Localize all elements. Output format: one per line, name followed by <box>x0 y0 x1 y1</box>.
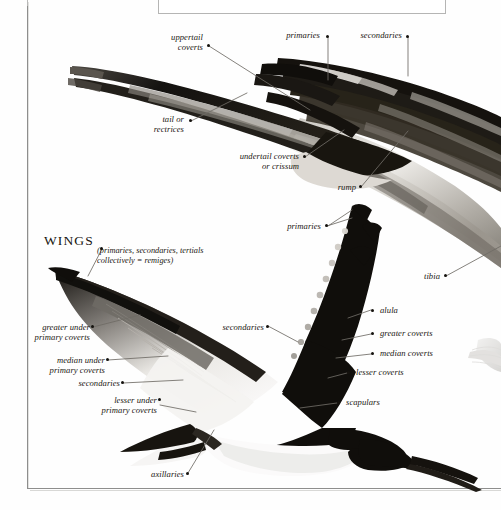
label-primaries-top: primaries <box>246 31 320 41</box>
section-heading-wings: WINGS <box>44 233 94 249</box>
plate-page: WINGS (primaries, secondaries, tertials … <box>0 0 501 510</box>
label-alula: alula <box>380 306 440 316</box>
label-dot-lesser-under-primary-coverts <box>158 398 161 401</box>
label-dot-lesser-coverts <box>347 371 350 374</box>
caption-box <box>158 0 446 14</box>
subheading-line-2: collectively = remiges) <box>97 256 173 265</box>
label-greater-under-primary-coverts: greater underprimary coverts <box>18 323 90 342</box>
label-scapulars: scapulars <box>346 398 416 408</box>
page-frame-left-shadow <box>28 2 29 489</box>
label-rump: rump <box>318 183 356 193</box>
label-lesser-coverts: lesser coverts <box>356 368 442 378</box>
label-secondaries-top: secondaries <box>324 31 402 41</box>
label-dot-primaries-mid <box>325 224 328 227</box>
label-dot-tibia <box>444 274 447 277</box>
plate-artwork <box>0 0 501 510</box>
label-tail-or-rectrices: tail orrectrices <box>128 115 184 134</box>
label-dot-axillaries <box>186 472 189 475</box>
label-median-coverts: median coverts <box>380 349 470 359</box>
label-dot-greater-under-primary-coverts <box>91 325 94 328</box>
label-dot-secondaries-upperwing <box>266 325 269 328</box>
page-frame-bottom-rule <box>27 488 501 489</box>
label-secondaries-underwing: secondaries <box>46 379 120 389</box>
label-dot-greater-coverts <box>371 332 374 335</box>
page-frame-bottom-shadow <box>30 490 501 491</box>
label-secondaries-upperwing: secondaries <box>190 323 264 333</box>
subheading-line-1: (primaries, secondaries, tertials <box>97 246 203 255</box>
label-dot-uppertail-coverts <box>207 44 210 47</box>
section-subheading-remiges: (primaries, secondaries, tertials collec… <box>97 246 203 266</box>
label-dot-scapulars <box>337 401 340 404</box>
label-dot-secondaries-top <box>406 35 409 38</box>
label-tibia: tibia <box>398 272 440 282</box>
label-axillaries: axillaries <box>140 470 184 480</box>
label-dot-tail-or-rectrices <box>189 119 192 122</box>
label-primaries-mid: primaries <box>245 222 321 232</box>
figure-right-edge-partial <box>468 338 501 372</box>
label-undertail-coverts: undertail covertsor crissum <box>203 152 299 171</box>
label-dot-undertail-coverts <box>303 155 306 158</box>
label-dot-secondaries-underwing <box>121 381 124 384</box>
label-uppertail-coverts: uppertailcoverts <box>108 33 203 52</box>
label-dot-wings-remiges <box>100 247 103 250</box>
label-dot-rump <box>359 185 362 188</box>
label-dot-alula <box>371 309 374 312</box>
label-median-under-primary-coverts: median underprimary coverts <box>33 356 105 375</box>
label-dot-median-under-primary-coverts <box>106 358 109 361</box>
label-greater-coverts: greater coverts <box>380 329 470 339</box>
label-dot-median-coverts <box>371 352 374 355</box>
label-lesser-under-primary-coverts: lesser underprimary coverts <box>85 396 157 415</box>
